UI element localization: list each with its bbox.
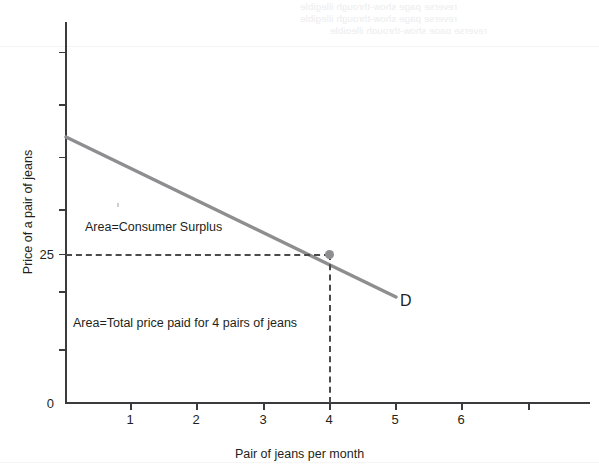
demand-curve-label: D: [400, 293, 412, 309]
plot-area: 25 0 1 2 3 4 5 6 Pair of jeans per month…: [0, 0, 599, 476]
scan-speck: [117, 203, 119, 207]
demand-curve-svg: [0, 0, 599, 476]
price-guide-dashed-line: [66, 254, 330, 256]
quantity-guide-dashed-line: [329, 254, 331, 403]
consumer-surplus-annotation: Area=Consumer Surplus: [85, 221, 222, 234]
total-price-paid-annotation: Area=Total price paid for 4 pairs of jea…: [73, 317, 297, 330]
demand-curve-line: [66, 137, 396, 297]
economics-demand-curve-figure: reverse page show-through illegible reve…: [0, 0, 599, 476]
equilibrium-point-marker: [325, 250, 334, 259]
